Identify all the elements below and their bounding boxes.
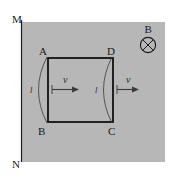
figure-canvas: M N B A B C D l l v v (0, 0, 176, 175)
label-n: N (12, 158, 20, 170)
label-corner-d: D (107, 45, 115, 57)
magnetic-field-region (22, 22, 165, 162)
label-corner-a: A (39, 45, 47, 57)
label-corner-b: B (38, 125, 45, 137)
label-velocity-right: v (126, 74, 131, 85)
physics-figure: M N B A B C D l l v v (0, 0, 176, 175)
label-b-field: B (145, 23, 152, 35)
label-m: M (12, 13, 22, 25)
label-velocity-left: v (63, 74, 68, 85)
label-corner-c: C (108, 125, 115, 137)
